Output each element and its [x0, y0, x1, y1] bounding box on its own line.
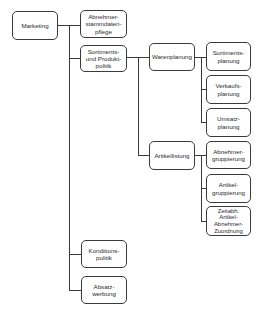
node-artikelgruppierung: Artikel- gruppierung: [206, 174, 251, 203]
connector-level2-trunk: [138, 57, 139, 156]
node-abnehmergruppierung: Abnehmer- gruppierung: [206, 141, 251, 169]
node-konditionspolitik: Konditions- politik: [81, 240, 127, 268]
node-sortimentsplanung: Sortiments- planung: [206, 42, 251, 71]
node-abnehmerstammdatenpflege: Abnehmer- stammdaten- pflege: [80, 10, 127, 38]
node-zeitabh-artikel-abnehmer-zuordnung: Zeitabh. Artikel- Abnehmer- Zuordnung: [206, 206, 251, 236]
connector-to-artikellistung: [138, 155, 149, 156]
connector-to-absatzwerbung: [69, 290, 81, 291]
connector-level1-trunk: [69, 25, 70, 291]
connector-to-konditionspolitik: [69, 254, 81, 255]
node-marketing: Marketing: [12, 11, 58, 40]
node-umsatzplanung: Umsatz- planung: [206, 108, 251, 137]
node-artikellistung: Artikellistung: [149, 141, 195, 170]
node-verkaufsplanung: Verkaufs- planung: [206, 75, 251, 104]
node-warenplanung: Warenplanung: [149, 43, 195, 71]
node-absatzwerbung: Absatz- werbung: [81, 276, 127, 304]
connector-warenplanung-trunk: [201, 57, 202, 123]
node-sortiments-produktpolitik: Sortiments- und Produkt- politik: [80, 45, 127, 72]
